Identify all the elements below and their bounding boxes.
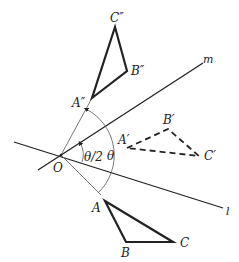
center-point-O — [60, 154, 63, 157]
label-A2: A″ — [71, 96, 86, 110]
label-C2: C″ — [110, 11, 124, 25]
triangle-A2B2C2 — [92, 27, 127, 98]
label-B2: B″ — [130, 64, 145, 78]
triangle-ABC — [105, 201, 173, 242]
half-theta-arc — [80, 143, 83, 162]
label-O: O — [53, 161, 63, 175]
label-B1: B′ — [162, 113, 175, 127]
rotation-diagram: O m l A B C A′ B′ C′ A″ B″ C″ θ/2 θ — [0, 0, 239, 262]
line-l — [14, 142, 223, 208]
label-theta: θ — [107, 149, 115, 163]
label-m: m — [203, 53, 213, 66]
label-C: C — [180, 236, 189, 250]
label-l: l — [226, 205, 230, 218]
triangle-A1B1C1 — [127, 129, 199, 156]
label-B: B — [120, 246, 130, 260]
line-m — [38, 63, 203, 170]
label-A: A — [91, 201, 101, 215]
label-A1: A′ — [117, 133, 130, 147]
label-C1: C′ — [204, 149, 216, 163]
label-half-theta: θ/2 — [84, 150, 103, 164]
